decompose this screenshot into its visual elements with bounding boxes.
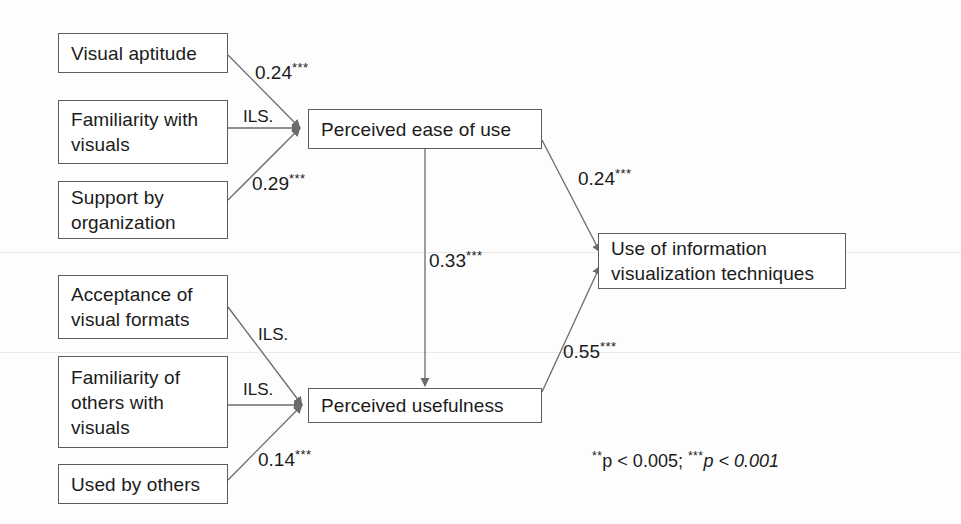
legend-stars-three: ***	[688, 449, 704, 463]
node-label: Perceived ease of use	[321, 117, 511, 142]
coefficient-value: 0.33	[429, 250, 466, 271]
node-label: Perceived usefulness	[321, 393, 504, 418]
coefficient-value: 0.24	[578, 168, 615, 189]
edge-label-ease-to-use: 0.24***	[578, 167, 632, 188]
edge-label-usefulness-to-use: 0.55***	[563, 340, 617, 361]
legend-p-005: p < 0.005;	[602, 451, 683, 471]
coefficient-value: 0.14	[258, 449, 295, 470]
significance-stars: ***	[295, 447, 312, 462]
node-label: Support by organization	[71, 185, 176, 235]
node-label: Use of information visualization techniq…	[611, 236, 814, 286]
node-used-by-others[interactable]: Used by others	[58, 464, 228, 504]
ils-text: ILS.	[243, 107, 273, 126]
node-label: Familiarity of others with visuals	[71, 365, 180, 440]
edge-usefulness-to-use	[542, 266, 600, 392]
node-label: Familiarity with visuals	[71, 107, 198, 157]
node-perceived-ease-of-use[interactable]: Perceived ease of use	[308, 109, 542, 149]
edge-label-familiarity-to-ease: ILS.	[243, 108, 273, 125]
edge-label-ease-to-usefulness: 0.33***	[429, 249, 483, 270]
edge-label-aptitude-to-ease: 0.24***	[255, 61, 309, 82]
node-use-of-information-visualization-techniques[interactable]: Use of information visualization techniq…	[598, 233, 846, 289]
significance-stars: ***	[466, 248, 483, 263]
edge-label-support-to-ease: 0.29***	[252, 172, 306, 193]
edge-label-used-by-others-to-usefulness: 0.14***	[258, 448, 312, 469]
scan-artifact-line	[0, 352, 961, 353]
coefficient-value: 0.55	[563, 341, 600, 362]
significance-stars: ***	[289, 171, 306, 186]
node-perceived-usefulness[interactable]: Perceived usefulness	[308, 388, 542, 423]
legend-stars-two: **	[592, 449, 602, 463]
node-label: Used by others	[71, 472, 200, 497]
node-visual-aptitude[interactable]: Visual aptitude	[58, 33, 228, 73]
node-support-organization[interactable]: Support by organization	[58, 181, 228, 239]
significance-legend: **p < 0.005; ***p < 0.001	[592, 450, 779, 470]
ils-text: ILS.	[243, 380, 273, 399]
significance-stars: ***	[600, 339, 617, 354]
edge-label-acceptance-to-usefulness: ILS.	[258, 326, 288, 343]
node-label: Acceptance of visual formats	[71, 282, 193, 332]
significance-stars: ***	[292, 60, 309, 75]
edge-ease-to-use	[542, 140, 600, 252]
ils-text: ILS.	[258, 325, 288, 344]
node-familiarity-others-visuals[interactable]: Familiarity of others with visuals	[58, 356, 228, 448]
path-diagram-canvas: Visual aptitude Familiarity with visuals…	[0, 0, 961, 524]
significance-stars: ***	[615, 166, 632, 181]
coefficient-value: 0.24	[255, 62, 292, 83]
node-label: Visual aptitude	[71, 41, 197, 66]
coefficient-value: 0.29	[252, 173, 289, 194]
node-familiarity-visuals[interactable]: Familiarity with visuals	[58, 100, 228, 164]
edge-label-familiarity-others-to-usefulness: ILS.	[243, 381, 273, 398]
legend-p-001: p < 0.001	[703, 451, 779, 471]
node-acceptance-visual-formats[interactable]: Acceptance of visual formats	[58, 275, 228, 339]
